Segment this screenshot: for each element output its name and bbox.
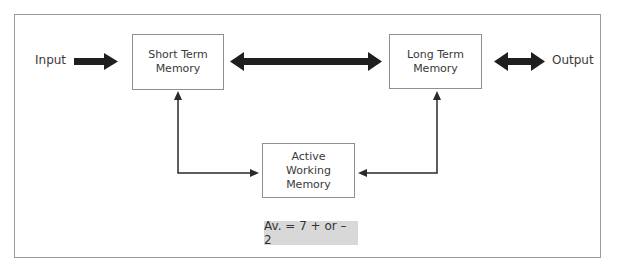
short-term-memory-line1: Short Term (148, 48, 208, 62)
output-label: Output (552, 53, 594, 67)
active-working-memory-line1: Active (286, 150, 331, 164)
short-term-memory-line2: Memory (148, 62, 208, 76)
long-term-memory-line2: Memory (407, 62, 464, 76)
long-term-memory-box: Long Term Memory (389, 34, 482, 89)
input-arrow-icon (74, 53, 118, 70)
long-term-memory-line1: Long Term (407, 48, 464, 62)
stm-ltm-double-arrow-icon (230, 52, 382, 71)
short-term-memory-box: Short Term Memory (132, 34, 224, 90)
stm-awm-connector-icon (174, 91, 259, 177)
active-working-memory-line3: Memory (286, 178, 331, 192)
capacity-note: Av. = 7 + or – 2 (264, 221, 358, 245)
input-label: Input (35, 53, 66, 67)
cropped-caption (14, 270, 304, 277)
active-working-memory-line2: Working (286, 164, 331, 178)
active-working-memory-box: Active Working Memory (262, 143, 355, 198)
ltm-output-double-arrow-icon (494, 52, 545, 71)
ltm-awm-connector-icon (358, 91, 441, 177)
